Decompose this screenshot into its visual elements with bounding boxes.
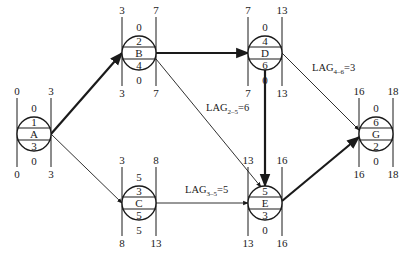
edge-E-G xyxy=(282,137,359,201)
node-latest-start: 13 xyxy=(243,237,255,249)
node-bottom-float: 0 xyxy=(136,74,142,86)
node-latest-finish: 18 xyxy=(388,168,400,180)
node-D: 4D600713713 xyxy=(245,4,288,99)
node-latest-start: 0 xyxy=(14,168,20,180)
node-earliest-finish: 7 xyxy=(153,4,159,16)
node-latest-finish: 13 xyxy=(151,237,163,249)
node-top-float: 0 xyxy=(31,102,37,114)
node-label: C xyxy=(135,197,142,209)
node-duration: 3 xyxy=(262,209,268,221)
node-label: G xyxy=(372,128,380,140)
node-earliest-start: 7 xyxy=(245,4,251,16)
node-latest-start: 16 xyxy=(354,168,366,180)
node-G: 6G20016181618 xyxy=(354,85,400,180)
node-B: 2B4003737 xyxy=(119,4,159,99)
node-earliest-start: 3 xyxy=(119,154,125,166)
node-duration: 4 xyxy=(136,59,142,71)
node-duration: 3 xyxy=(31,140,37,152)
edges xyxy=(51,53,359,203)
node-duration: 6 xyxy=(262,59,268,71)
node-top-float: 0 xyxy=(136,21,142,33)
node-A: 1A3000303 xyxy=(14,85,54,180)
node-number: 2 xyxy=(136,35,142,47)
node-latest-start: 8 xyxy=(119,237,125,249)
edge-B-E xyxy=(156,59,261,187)
node-top-float: 5 xyxy=(136,171,142,183)
node-latest-start: 7 xyxy=(245,87,251,99)
node-latest-finish: 3 xyxy=(48,168,54,180)
node-bottom-float: 0 xyxy=(262,74,268,86)
lag-label-4-6: LAG4–6=3 xyxy=(312,62,355,76)
edge-A-B xyxy=(51,53,122,134)
lag-label-3-5: LAG3–5=5 xyxy=(185,184,228,198)
node-number: 6 xyxy=(373,116,379,128)
node-latest-finish: 13 xyxy=(277,87,289,99)
node-latest-start: 3 xyxy=(119,87,125,99)
node-earliest-start: 0 xyxy=(14,85,20,97)
node-latest-finish: 16 xyxy=(277,237,289,249)
node-duration: 2 xyxy=(373,140,379,152)
node-earliest-finish: 8 xyxy=(153,154,159,166)
node-number: 5 xyxy=(262,185,268,197)
node-bottom-float: 0 xyxy=(262,224,268,236)
node-number: 3 xyxy=(136,185,142,197)
node-earliest-start: 3 xyxy=(119,4,125,16)
node-earliest-finish: 3 xyxy=(48,85,54,97)
node-earliest-finish: 18 xyxy=(388,85,400,97)
node-bottom-float: 0 xyxy=(31,155,37,167)
node-earliest-start: 16 xyxy=(354,85,366,97)
node-number: 4 xyxy=(262,35,268,47)
node-number: 1 xyxy=(31,116,37,128)
node-top-float: 0 xyxy=(262,21,268,33)
node-earliest-start: 13 xyxy=(243,154,255,166)
node-top-float: 0 xyxy=(373,102,379,114)
edge-A-C xyxy=(51,134,122,203)
node-bottom-float: 0 xyxy=(373,155,379,167)
node-top-float: 0 xyxy=(262,171,268,183)
node-label: D xyxy=(261,47,269,59)
node-label: E xyxy=(262,197,269,209)
node-label: A xyxy=(30,128,38,140)
node-latest-finish: 7 xyxy=(153,87,159,99)
node-bottom-float: 5 xyxy=(136,224,142,236)
lag-label-2-5: LAG2–5=6 xyxy=(206,102,249,116)
node-earliest-finish: 16 xyxy=(277,154,289,166)
nodes: 1A30003032B40037373C555388134D6007137135… xyxy=(14,4,399,249)
node-duration: 5 xyxy=(136,209,142,221)
network-diagram: 1A30003032B40037373C555388134D6007137135… xyxy=(0,0,418,258)
node-C: 3C55538813 xyxy=(119,154,162,249)
node-label: B xyxy=(135,47,142,59)
node-earliest-finish: 13 xyxy=(277,4,289,16)
